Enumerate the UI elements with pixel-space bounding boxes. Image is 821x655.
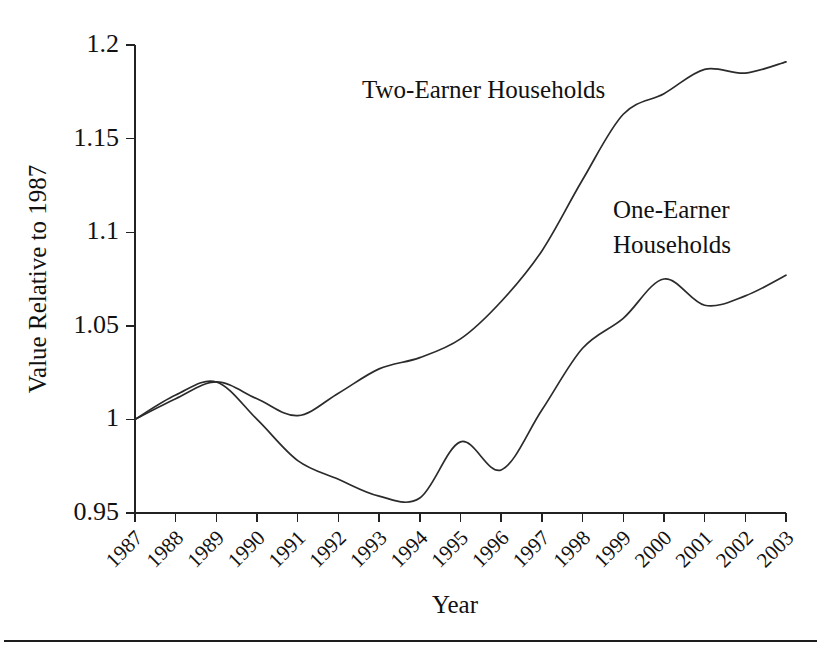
x-axis-title: Year: [432, 591, 479, 618]
line-chart: 0.9511.051.11.151.2 19871988198919901991…: [0, 0, 821, 655]
y-tick-label: 1: [106, 403, 119, 432]
chart-figure: 0.9511.051.11.151.2 19871988198919901991…: [0, 0, 821, 655]
x-axis-tick-labels: 1987198819891990199119921993199419951996…: [101, 525, 799, 572]
one-earner-label-line: Households: [613, 231, 731, 258]
one-earner-label-line: One-Earner: [613, 196, 730, 223]
two-earner-label: Two-Earner Households: [362, 76, 605, 103]
y-tick-label: 1.1: [87, 216, 120, 245]
y-tick-label: 0.95: [74, 497, 120, 526]
y-tick-label: 1.05: [74, 310, 120, 339]
y-tick-label: 1.15: [74, 123, 120, 152]
y-axis-title: Value Relative to 1987: [24, 165, 51, 393]
y-tick-label: 1.2: [87, 29, 120, 58]
two-earner-label-line: Two-Earner Households: [362, 76, 605, 103]
